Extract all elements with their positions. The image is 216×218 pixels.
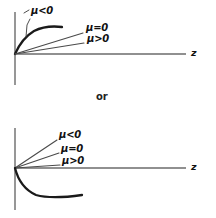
lower-ray-mu-negative <box>15 140 57 168</box>
lower-label-mu-zero: μ=0 <box>61 144 83 154</box>
lower-panel <box>15 128 186 210</box>
upper-ray-mu-positive <box>15 43 84 54</box>
bifurcation-figure: μ<0 μ=0 μ>0 z or μ<0 μ=0 μ>0 z <box>0 0 216 218</box>
upper-label-mu-zero: μ=0 <box>86 23 108 33</box>
connector-or-label: or <box>96 92 108 102</box>
lower-z-axis-label: z <box>191 162 197 172</box>
lower-label-mu-negative: μ<0 <box>59 130 81 140</box>
upper-label-mu-negative: μ<0 <box>31 6 53 16</box>
upper-ray-mu-zero <box>15 33 83 54</box>
lower-label-mu-positive: μ>0 <box>62 156 84 166</box>
upper-z-axis-label: z <box>191 48 197 58</box>
upper-label-tick-mu-negative <box>24 10 29 13</box>
lower-curve-subcritical <box>15 168 82 197</box>
upper-label-mu-positive: μ>0 <box>87 34 109 44</box>
